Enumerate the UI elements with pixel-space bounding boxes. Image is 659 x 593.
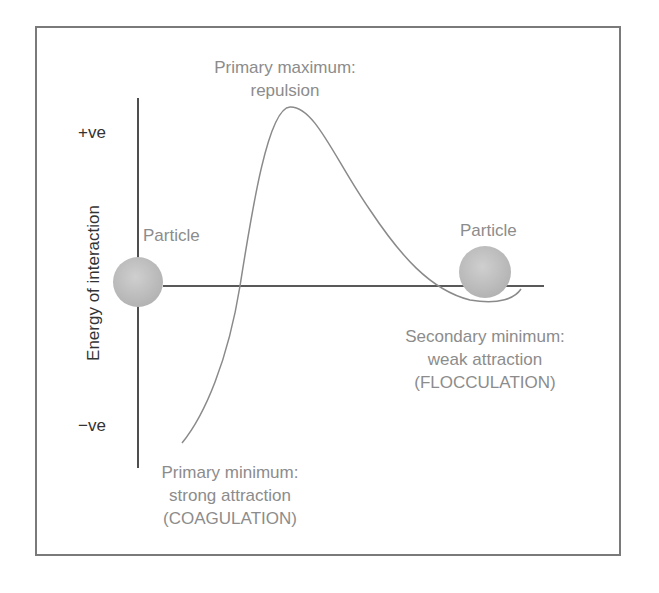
right-particle [459, 246, 511, 298]
primary-maximum-label: Primary maximum: repulsion [200, 56, 370, 102]
right-particle-label: Particle [460, 219, 517, 242]
y-axis-label: Energy of interaction [84, 205, 104, 361]
positive-label: +ve [78, 121, 106, 144]
negative-label: −ve [78, 414, 106, 437]
left-particle [113, 257, 163, 307]
primary-minimum-label: Primary minimum: strong attraction (COAG… [140, 461, 320, 530]
left-particle-label: Particle [143, 224, 200, 247]
secondary-minimum-label: Secondary minimum: weak attraction (FLOC… [385, 325, 585, 394]
